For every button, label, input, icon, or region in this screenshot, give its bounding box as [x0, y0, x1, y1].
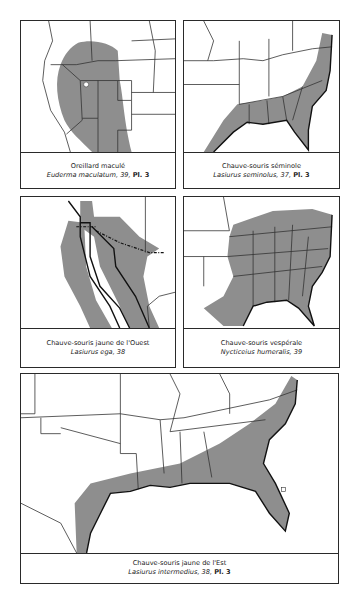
- map-panel-lasiurus-seminolus: Chauve-souris séminole Lasiurus seminolu…: [183, 20, 340, 189]
- page-reference: , 39,: [116, 171, 133, 179]
- scientific-name: Lasiurus intermedius: [128, 568, 197, 576]
- plate-reference: Pl. 3: [214, 568, 230, 576]
- common-name: Chauve-souris jaune de l'Est: [21, 559, 338, 568]
- scientific-name: Lasiurus ega: [71, 348, 113, 356]
- map-panel-lasiurus-ega: Chauve-souris jaune de l'Ouest Lasiurus …: [20, 196, 176, 368]
- map-caption: Chauve-souris séminole Lasiurus seminolu…: [184, 153, 339, 188]
- plate-reference: Pl. 3: [133, 171, 149, 179]
- range-map: [21, 374, 338, 554]
- range-map: [21, 197, 175, 329]
- page-reference: , 37,: [276, 171, 293, 179]
- map-caption: Chauve-souris jaune de l'Ouest Lasiurus …: [21, 329, 175, 367]
- page-reference: , 38,: [197, 568, 214, 576]
- scientific-name: Euderma maculatum: [47, 171, 116, 179]
- map-caption: Chauve-souris vespérale Nycticeius humer…: [184, 329, 339, 367]
- map-panel-euderma-maculatum: Oreillard maculé Euderma maculatum, 39, …: [20, 20, 176, 189]
- common-name: Chauve-souris jaune de l'Ouest: [21, 339, 175, 348]
- common-name: Chauve-souris séminole: [184, 162, 339, 171]
- common-name: Oreillard maculé: [21, 162, 175, 171]
- range-map: [21, 21, 175, 153]
- page-reference: , 39: [290, 348, 303, 356]
- range-map: [184, 197, 339, 329]
- range-map: [184, 21, 339, 153]
- common-name: Chauve-souris vespérale: [184, 339, 339, 348]
- map-panel-nycticeius-humeralis: Chauve-souris vespérale Nycticeius humer…: [183, 196, 340, 368]
- scientific-name: Nycticeius humeralis: [221, 348, 290, 356]
- map-panel-lasiurus-intermedius: Chauve-souris jaune de l'Est Lasiurus in…: [20, 373, 339, 584]
- map-caption: Oreillard maculé Euderma maculatum, 39, …: [21, 153, 175, 188]
- plate-reference: Pl. 3: [293, 171, 309, 179]
- page-reference: , 38: [113, 348, 126, 356]
- scientific-name: Lasiurus seminolus: [213, 171, 276, 179]
- map-caption: Chauve-souris jaune de l'Est Lasiurus in…: [21, 553, 338, 583]
